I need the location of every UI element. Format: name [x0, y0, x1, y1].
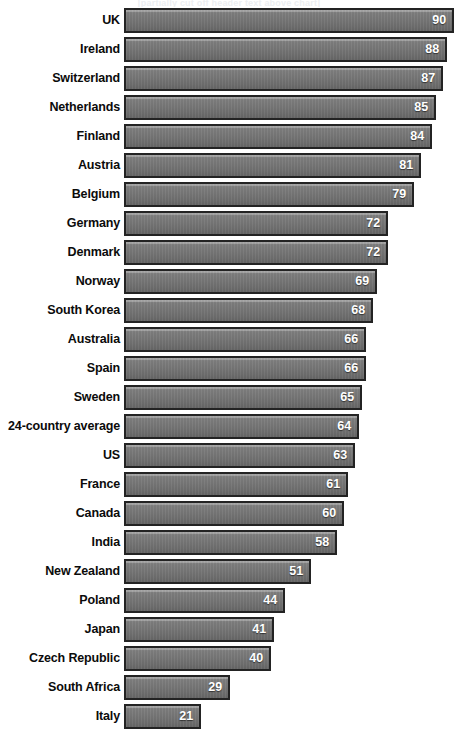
bar-value-label: 88	[425, 43, 445, 56]
bar: 66	[124, 327, 366, 352]
bar: 81	[124, 153, 421, 178]
bar-value-label: 29	[208, 681, 228, 694]
bar-row: Italy21	[0, 704, 458, 729]
bar-category-label: Switzerland	[0, 72, 124, 85]
bar-value-label: 69	[355, 275, 375, 288]
bar-row: New Zealand51	[0, 559, 458, 584]
bar-row: Japan41	[0, 617, 458, 642]
bar: 88	[124, 37, 447, 62]
clipped-header-text: [partially cut off header text above cha…	[0, 0, 458, 7]
bar-track: 90	[124, 8, 458, 33]
bar: 69	[124, 269, 377, 294]
bar-track: 60	[124, 501, 458, 526]
bar-row: South Korea68	[0, 298, 458, 323]
bar-category-label: Poland	[0, 594, 124, 607]
bar-category-label: India	[0, 536, 124, 549]
bar: 63	[124, 443, 355, 468]
bar-value-label: 44	[263, 594, 283, 607]
bar-track: 44	[124, 588, 458, 613]
bar-value-label: 90	[432, 14, 452, 27]
bar-track: 64	[124, 414, 458, 439]
bar-track: 63	[124, 443, 458, 468]
bar-row: India58	[0, 530, 458, 555]
bar-row: Denmark72	[0, 240, 458, 265]
bar-track: 85	[124, 95, 458, 120]
bar-track: 21	[124, 704, 458, 729]
bar-track: 68	[124, 298, 458, 323]
bar-value-label: 66	[344, 362, 364, 375]
bar-row: Finland84	[0, 124, 458, 149]
bar-value-label: 61	[326, 478, 346, 491]
bar-row: Sweden65	[0, 385, 458, 410]
bar-value-label: 63	[333, 449, 353, 462]
bar-value-label: 40	[249, 652, 269, 665]
bar-track: 66	[124, 356, 458, 381]
bar-category-label: Netherlands	[0, 101, 124, 114]
bar-row: Australia66	[0, 327, 458, 352]
bar-track: 29	[124, 675, 458, 700]
bar-category-label: Sweden	[0, 391, 124, 404]
bar-category-label: US	[0, 449, 124, 462]
bar-category-label: France	[0, 478, 124, 491]
bar-track: 61	[124, 472, 458, 497]
bar-track: 81	[124, 153, 458, 178]
bar-category-label: Japan	[0, 623, 124, 636]
bar-value-label: 58	[315, 536, 335, 549]
bar-track: 40	[124, 646, 458, 671]
bar: 72	[124, 211, 388, 236]
bar-value-label: 68	[351, 304, 371, 317]
bar-track: 84	[124, 124, 458, 149]
bar: 29	[124, 675, 230, 700]
bar-row: Austria81	[0, 153, 458, 178]
bar-value-label: 72	[366, 246, 386, 259]
bar-row: South Africa29	[0, 675, 458, 700]
bar: 41	[124, 617, 274, 642]
bar-category-label: Norway	[0, 275, 124, 288]
bar-row: Netherlands85	[0, 95, 458, 120]
bar-row: Germany72	[0, 211, 458, 236]
bar-value-label: 65	[340, 391, 360, 404]
bar-category-label: UK	[0, 14, 124, 27]
bar: 66	[124, 356, 366, 381]
bar: 68	[124, 298, 373, 323]
bar-row: Norway69	[0, 269, 458, 294]
bar-category-label: Belgium	[0, 188, 124, 201]
bar-track: 88	[124, 37, 458, 62]
bar-row: UK90	[0, 8, 458, 33]
bar: 60	[124, 501, 344, 526]
bar-category-label: Canada	[0, 507, 124, 520]
bar-track: 58	[124, 530, 458, 555]
bar-category-label: Italy	[0, 710, 124, 723]
bar-row: US63	[0, 443, 458, 468]
bar-track: 65	[124, 385, 458, 410]
bar: 61	[124, 472, 348, 497]
bar-category-label: Ireland	[0, 43, 124, 56]
bar-value-label: 21	[179, 710, 199, 723]
bar-value-label: 66	[344, 333, 364, 346]
bar-row: Ireland88	[0, 37, 458, 62]
bar-value-label: 72	[366, 217, 386, 230]
bar-row: 24-country average64	[0, 414, 458, 439]
bar-value-label: 81	[399, 159, 419, 172]
bar-category-label: New Zealand	[0, 565, 124, 578]
bar-track: 41	[124, 617, 458, 642]
bar-value-label: 51	[289, 565, 309, 578]
bar: 44	[124, 588, 285, 613]
bar-value-label: 41	[252, 623, 272, 636]
bar: 64	[124, 414, 359, 439]
bar-track: 72	[124, 211, 458, 236]
bar: 90	[124, 8, 454, 33]
bar-row: Spain66	[0, 356, 458, 381]
bar: 84	[124, 124, 432, 149]
bar-value-label: 60	[322, 507, 342, 520]
bar: 58	[124, 530, 337, 555]
bar: 72	[124, 240, 388, 265]
bar-track: 79	[124, 182, 458, 207]
bar-category-label: Finland	[0, 130, 124, 143]
bar-category-label: South Korea	[0, 304, 124, 317]
bar-track: 69	[124, 269, 458, 294]
bar-row: Switzerland87	[0, 66, 458, 91]
bar-category-label: Spain	[0, 362, 124, 375]
bar-value-label: 84	[410, 130, 430, 143]
